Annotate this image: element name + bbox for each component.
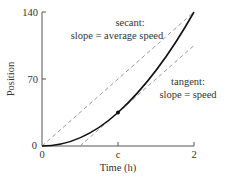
tangent-description: slope = speed [159,89,217,100]
x-tick-label-2: 2 [191,149,196,160]
y-axis-title: Position [5,61,16,96]
position-time-chart: 140 70 0 0 c 2 Time (h) Position secant:… [0,0,226,181]
x-axis-title: Time (h) [100,162,137,174]
y-tick-label-70: 70 [28,74,39,85]
y-tick-label-140: 140 [22,7,38,18]
secant-description: slope = average speed [71,30,164,41]
secant-title: secant: [115,17,144,28]
y-tick-label-0: 0 [32,140,37,151]
x-tick-label-0: 0 [39,149,44,160]
point-c-marker [116,111,120,115]
tangent-title: tangent: [171,76,205,87]
x-tick-label-c: c [116,149,121,160]
